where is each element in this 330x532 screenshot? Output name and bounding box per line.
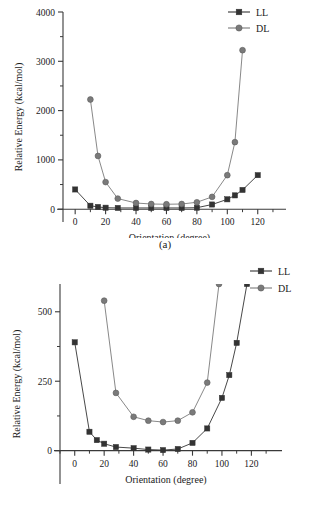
data-point-marker (209, 194, 215, 200)
data-point-marker (148, 201, 154, 207)
data-point-marker (87, 97, 93, 103)
legend-marker-ll (258, 268, 264, 274)
y-tick-label: 0 (50, 205, 55, 215)
chart-a-canvas: 02040608010012001000200030004000Orientat… (0, 0, 330, 238)
data-point-marker (101, 298, 107, 304)
data-point-marker (232, 139, 238, 145)
y-tick-label: 250 (38, 377, 53, 387)
series-line-dl (104, 284, 219, 422)
data-point-marker (194, 205, 199, 210)
caption-a: (a) (0, 238, 330, 250)
chart-panel-a: 02040608010012001000200030004000Orientat… (0, 0, 330, 266)
data-point-marker (205, 426, 210, 431)
chart-panel-b: 0204060801001200250500Orientation (degre… (0, 266, 330, 532)
data-point-marker (102, 441, 107, 446)
x-tick-label: 20 (101, 217, 111, 227)
x-tick-label: 40 (131, 217, 141, 227)
data-point-marker (131, 446, 136, 451)
data-point-marker (234, 340, 239, 345)
legend-label-dl: DL (278, 283, 291, 294)
y-axis-title: Relative Energy (kcal/mol) (11, 330, 23, 439)
chart-b-canvas: 0204060801001200250500Orientation (degre… (0, 266, 330, 506)
data-point-marker (95, 153, 101, 159)
series-layer (73, 47, 261, 210)
x-tick-label: 40 (129, 459, 139, 469)
series-line-ll (75, 284, 247, 450)
data-point-marker (210, 202, 215, 207)
legend: LLDL (250, 266, 291, 294)
data-point-marker (175, 418, 181, 424)
x-tick-label: 0 (72, 459, 77, 469)
x-tick-label: 80 (188, 459, 198, 469)
data-point-marker (115, 196, 121, 202)
x-tick-label: 60 (162, 217, 172, 227)
y-tick-label: 1000 (36, 155, 55, 165)
x-tick-label: 120 (251, 217, 266, 227)
x-tick-label: 100 (220, 217, 235, 227)
x-tick-label: 60 (158, 459, 168, 469)
data-point-marker (219, 395, 224, 400)
y-axis-title: Relative Energy (kcal/mol) (13, 63, 25, 172)
legend-label-ll: LL (256, 7, 268, 18)
data-point-marker (179, 201, 185, 207)
series-dl (101, 281, 222, 425)
data-point-marker (72, 340, 77, 345)
data-point-marker (115, 205, 120, 210)
y-tick-label: 500 (38, 307, 53, 317)
data-point-marker (194, 199, 200, 205)
x-tick-label: 0 (73, 217, 78, 227)
data-point-marker (133, 200, 139, 206)
series-line-dl (90, 50, 242, 204)
data-point-marker (145, 418, 151, 424)
data-point-marker (190, 440, 195, 445)
data-point-marker (240, 47, 246, 53)
y-tick-label: 3000 (36, 57, 55, 67)
data-point-marker (224, 172, 230, 178)
data-point-marker (103, 205, 108, 210)
legend-marker-dl (236, 25, 242, 31)
data-point-marker (164, 201, 170, 207)
data-point-marker (103, 179, 109, 185)
data-point-marker (227, 373, 232, 378)
series-dl (87, 47, 245, 207)
data-point-marker (175, 446, 180, 451)
data-point-marker (88, 203, 93, 208)
data-point-marker (131, 414, 137, 420)
data-point-marker (255, 173, 260, 178)
legend-marker-ll (236, 9, 242, 15)
data-point-marker (113, 444, 118, 449)
data-point-marker (216, 281, 222, 287)
legend: LLDL (228, 7, 269, 34)
data-point-marker (160, 448, 165, 453)
y-tick-label: 2000 (36, 106, 55, 116)
figure-container: 02040608010012001000200030004000Orientat… (0, 0, 330, 532)
data-point-marker (160, 419, 166, 425)
data-point-marker (190, 409, 196, 415)
x-tick-label: 80 (192, 217, 202, 227)
data-point-marker (113, 390, 119, 396)
data-point-marker (225, 197, 230, 202)
data-point-marker (204, 380, 210, 386)
data-point-marker (232, 193, 237, 198)
legend-label-dl: DL (256, 23, 269, 34)
series-ll (72, 281, 249, 452)
data-point-marker (94, 438, 99, 443)
x-tick-label: 20 (99, 459, 109, 469)
x-tick-label: 120 (244, 459, 259, 469)
y-tick-label: 0 (47, 446, 52, 456)
data-point-marker (95, 204, 100, 209)
data-point-marker (146, 447, 151, 452)
legend-marker-dl (258, 285, 264, 291)
data-point-marker (87, 429, 92, 434)
data-point-marker (244, 281, 249, 286)
series-layer (72, 281, 249, 453)
data-point-marker (73, 187, 78, 192)
data-point-marker (240, 187, 245, 192)
x-tick-label: 100 (215, 459, 230, 469)
y-tick-label: 4000 (36, 8, 55, 18)
x-axis-title: Orientation (degree) (125, 474, 206, 486)
legend-label-ll: LL (278, 266, 290, 277)
